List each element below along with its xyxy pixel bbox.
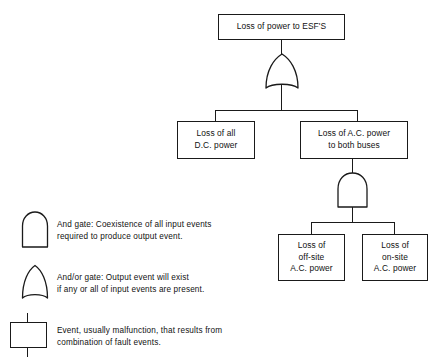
node-top-event: Loss of power to ESF'S xyxy=(218,14,345,40)
connector-bus-to-onsite-ac xyxy=(394,222,395,234)
and-gate-middle xyxy=(336,172,369,208)
legend-or-gate-icon xyxy=(21,265,49,302)
fault-tree-diagram: Loss of power to ESF'S Loss of all D.C. … xyxy=(0,0,443,364)
connector-or-gate-to-bus xyxy=(281,85,282,110)
legend-item-and-gate-text: And gate: Coexistence of all input event… xyxy=(57,219,247,244)
legend-item-or-gate-text: And/or gate: Output event will exist if … xyxy=(57,272,252,297)
node-loss-of-ac-power-both-buses: Loss of A.C. power to both buses xyxy=(300,121,408,159)
connector-ac-buses-to-and-gate xyxy=(352,159,353,173)
connector-bus-to-dc-power xyxy=(215,110,216,121)
legend-and-gate-icon xyxy=(21,211,49,248)
connector-and-gate-to-bus xyxy=(352,207,353,223)
connector-bus-to-offsite-ac xyxy=(311,222,312,234)
node-loss-of-offsite-ac-power: Loss of off-site A.C. power xyxy=(278,234,345,281)
legend-event-box-icon xyxy=(10,322,47,348)
legend-event-box-bottom-stub xyxy=(27,347,28,357)
legend-item-event-box-text: Event, usually malfunction, that results… xyxy=(57,325,257,350)
node-loss-of-dc-power: Loss of all D.C. power xyxy=(177,121,255,159)
node-loss-of-onsite-ac-power: Loss of on-site A.C. power xyxy=(362,234,428,281)
connector-bus-to-ac-buses xyxy=(357,110,358,121)
connector-bus-level-2 xyxy=(215,110,358,111)
connector-bus-level-3 xyxy=(311,222,395,223)
connector-top-to-or-gate xyxy=(281,40,282,55)
